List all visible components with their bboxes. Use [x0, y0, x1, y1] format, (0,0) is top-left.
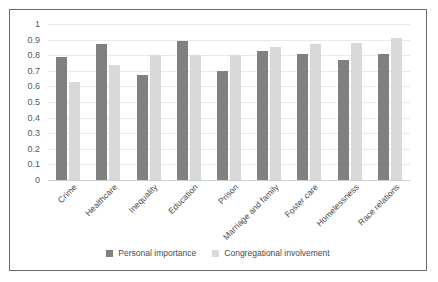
bar[interactable]	[96, 44, 107, 180]
bar[interactable]	[351, 43, 362, 180]
bar[interactable]	[56, 57, 67, 180]
x-axis-tick-label: Foster care	[283, 182, 320, 219]
legend-swatch-icon	[106, 250, 113, 257]
x-axis-tick-label: Prison	[216, 182, 240, 206]
legend-label: Congregational involvement	[224, 248, 329, 258]
bar[interactable]	[270, 47, 281, 180]
y-axis-tick-label: 0.7	[27, 66, 40, 75]
bar[interactable]	[230, 55, 241, 180]
bar-group	[330, 24, 370, 180]
x-axis-tick-label: Healthcare	[83, 182, 119, 218]
bars-layer	[48, 24, 410, 180]
y-axis-tick-label: 0.4	[27, 113, 40, 122]
y-axis-tick-label: 0.2	[27, 144, 40, 153]
legend-label: Personal importance	[118, 248, 196, 258]
bar-group	[209, 24, 249, 180]
y-axis-tick-label: 0.5	[27, 98, 40, 107]
bar[interactable]	[391, 38, 402, 180]
legend-item[interactable]: Personal importance	[106, 248, 196, 258]
chart-frame: 10.90.80.70.60.50.40.30.20.10 CrimeHealt…	[9, 9, 427, 271]
bar[interactable]	[190, 55, 201, 180]
y-axis-tick-labels: 10.90.80.70.60.50.40.30.20.10	[10, 24, 44, 180]
bar[interactable]	[150, 55, 161, 180]
x-axis-tick-label: Homelessness	[314, 182, 360, 228]
y-axis-tick-label: 0.3	[27, 129, 40, 138]
plot-area	[48, 24, 410, 180]
bar-group	[128, 24, 168, 180]
y-axis-tick-label: 0	[35, 176, 40, 185]
chart-legend: Personal importanceCongregational involv…	[10, 248, 426, 258]
y-axis-tick-label: 0.1	[27, 160, 40, 169]
bar-group	[88, 24, 128, 180]
bar[interactable]	[297, 54, 308, 180]
bar-group	[169, 24, 209, 180]
x-axis-tick-label: Race relations	[355, 182, 400, 227]
bar[interactable]	[310, 44, 321, 180]
bar[interactable]	[257, 51, 268, 180]
bar[interactable]	[109, 65, 120, 180]
bar[interactable]	[69, 82, 80, 180]
legend-swatch-icon	[212, 250, 219, 257]
x-axis-tick-label: Crime	[56, 182, 79, 205]
y-axis-tick-label: 1	[35, 20, 40, 29]
bar[interactable]	[338, 60, 349, 180]
bar-group	[289, 24, 329, 180]
bar[interactable]	[217, 71, 228, 180]
y-axis-tick-label: 0.6	[27, 82, 40, 91]
bar-group	[48, 24, 88, 180]
bar[interactable]	[177, 41, 188, 180]
x-axis-tick-label: Inequality	[127, 182, 160, 215]
y-axis-tick-label: 0.8	[27, 51, 40, 60]
bar-group	[249, 24, 289, 180]
x-axis-tick-labels: CrimeHealthcareInequalityEducationPrison…	[48, 180, 410, 242]
bar[interactable]	[137, 75, 148, 180]
y-axis-tick-label: 0.9	[27, 35, 40, 44]
x-axis-tick-label: Education	[166, 182, 200, 216]
bar-group	[370, 24, 410, 180]
bar[interactable]	[378, 54, 389, 180]
legend-item[interactable]: Congregational involvement	[212, 248, 329, 258]
